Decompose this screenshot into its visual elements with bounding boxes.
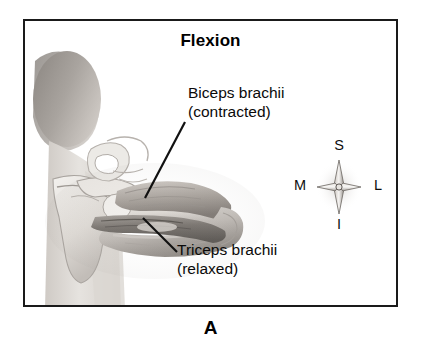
- compass-star-icon: [316, 159, 362, 215]
- triceps-label-line2: (relaxed): [177, 259, 277, 278]
- biceps-brachii-label: Biceps brachii (contracted): [188, 83, 285, 121]
- figure-letter: A: [23, 317, 398, 339]
- head-silhouette: [33, 51, 101, 151]
- biceps-label-line2: (contracted): [188, 102, 285, 121]
- triceps-brachii-label: Triceps brachii (relaxed): [177, 240, 277, 278]
- compass-label-superior: S: [289, 137, 389, 153]
- compass-label-inferior: I: [289, 216, 389, 232]
- biceps-label-line1: Biceps brachii: [188, 83, 285, 102]
- compass-label-lateral: L: [365, 177, 391, 193]
- orientation-compass: S I M L: [289, 137, 389, 237]
- triceps-label-line1: Triceps brachii: [177, 240, 277, 259]
- compass-label-medial: M: [287, 177, 313, 193]
- figure-panel: Flexion: [23, 19, 398, 307]
